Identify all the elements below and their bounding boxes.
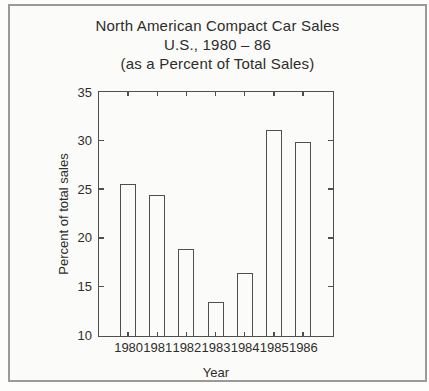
x-tick-bottom-1981: [157, 332, 159, 336]
x-axis-title: Year: [203, 365, 229, 380]
y-tick-right-30: [328, 140, 333, 142]
x-tick-bottom-1986: [302, 332, 304, 336]
bar-1982: [178, 249, 194, 336]
bar-1984: [237, 273, 253, 336]
x-tick-label-1986: 1986: [281, 341, 325, 354]
y-tick-label-10: 10: [58, 329, 92, 343]
x-tick-top-1980: [127, 92, 129, 96]
y-tick-label-30: 30: [58, 134, 92, 148]
y-tick-left-15: [99, 286, 104, 288]
bar-1985: [266, 130, 282, 336]
x-tick-top-1981: [157, 92, 159, 96]
chart-title-line3: (as a Percent of Total Sales): [10, 54, 425, 73]
y-tick-left-30: [99, 140, 104, 142]
x-tick-top-1982: [186, 92, 188, 96]
plot-area: [98, 91, 334, 337]
bar-1986: [295, 142, 311, 336]
x-tick-bottom-1982: [186, 332, 188, 336]
bar-1983: [208, 302, 224, 336]
x-tick-top-1985: [273, 92, 275, 96]
x-tick-bottom-1983: [215, 332, 217, 336]
x-tick-top-1983: [215, 92, 217, 96]
y-tick-left-20: [99, 237, 104, 239]
y-tick-right-15: [328, 286, 333, 288]
y-tick-right-25: [328, 188, 333, 190]
x-tick-bottom-1984: [244, 332, 246, 336]
y-axis-title: Percent of total sales: [56, 153, 71, 274]
y-tick-right-20: [328, 237, 333, 239]
y-tick-label-15: 15: [58, 280, 92, 294]
chart-title: North American Compact Car Sales U.S., 1…: [10, 16, 425, 73]
chart-title-line1: North American Compact Car Sales: [10, 16, 425, 35]
y-tick-left-25: [99, 188, 104, 190]
x-tick-bottom-1985: [273, 332, 275, 336]
x-tick-top-1984: [244, 92, 246, 96]
bar-1980: [120, 184, 136, 336]
x-tick-bottom-1980: [127, 332, 129, 336]
y-tick-label-35: 35: [58, 86, 92, 100]
x-tick-top-1986: [302, 92, 304, 96]
chart-title-line2: U.S., 1980 – 86: [10, 35, 425, 54]
bar-1981: [149, 195, 165, 336]
